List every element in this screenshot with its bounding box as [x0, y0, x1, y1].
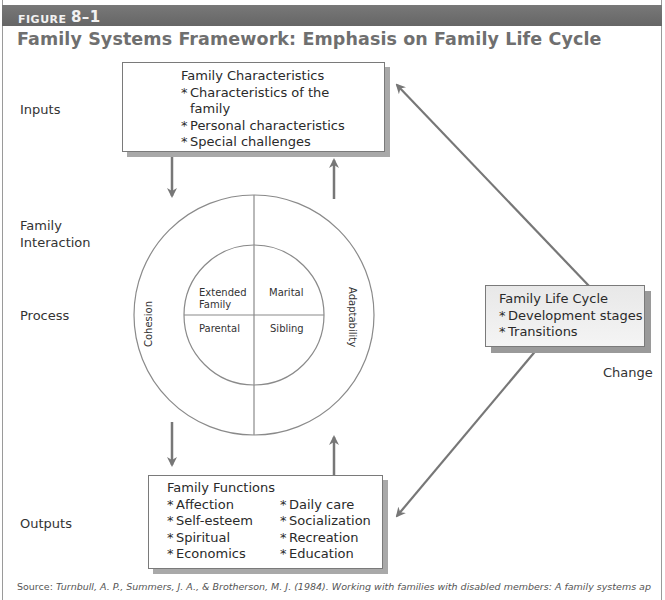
- bullet: *: [280, 530, 289, 547]
- inputs-item: *Characteristics of thefamily: [181, 85, 384, 118]
- inputs-item-text-cont: family: [181, 101, 384, 118]
- bullet: *: [167, 546, 176, 563]
- bullet: *: [280, 497, 289, 514]
- outputs-item-text: Self-esteem: [176, 513, 253, 528]
- life-cycle-item: *Development stages: [499, 308, 644, 325]
- bullet: *: [167, 530, 176, 547]
- row-label-family-interaction: Family Interaction: [20, 217, 91, 251]
- quadrant-extended-line2: Family: [199, 299, 247, 311]
- citation-text: Turnbull, A. P., Summers, J. A., & Broth…: [56, 581, 651, 592]
- bullet: *: [280, 546, 289, 563]
- outputs-item: *Education: [280, 546, 371, 563]
- row-label-outputs: Outputs: [20, 515, 72, 532]
- life-cycle-item-text: Development stages: [508, 308, 643, 323]
- bullet: *: [167, 497, 176, 514]
- inputs-item-text: Special challenges: [190, 134, 311, 149]
- inputs-box-heading: Family Characteristics: [181, 68, 384, 85]
- inputs-item: *Personal characteristics: [181, 118, 384, 135]
- outputs-col-1: *Affection *Self-esteem *Spiritual *Econ…: [167, 497, 280, 563]
- outputs-item: *Spiritual: [167, 530, 280, 547]
- cohesion-label: Cohesion: [143, 263, 154, 309]
- bullet: *: [499, 308, 508, 325]
- outputs-item-text: Affection: [176, 497, 234, 512]
- row-label-interaction-line1: Family: [20, 217, 91, 234]
- row-label-inputs: Inputs: [20, 101, 60, 118]
- quadrant-extended-family: Extended Family: [199, 287, 247, 311]
- row-label-process: Process: [20, 307, 69, 324]
- outputs-item-text: Education: [289, 546, 354, 561]
- outputs-item: *Self-esteem: [167, 513, 280, 530]
- row-label-interaction-line2: Interaction: [20, 234, 91, 251]
- cohesion-text: Cohesion: [143, 301, 154, 347]
- row-label-change: Change: [603, 364, 653, 381]
- outputs-item: *Affection: [167, 497, 280, 514]
- adaptability-text: Adaptability: [347, 287, 358, 347]
- bullet: *: [181, 134, 190, 151]
- inputs-box: Family Characteristics *Characteristics …: [122, 62, 385, 152]
- outputs-box-heading: Family Functions: [167, 480, 382, 497]
- inputs-item-text: Characteristics of the: [190, 85, 329, 100]
- outputs-columns: *Affection *Self-esteem *Spiritual *Econ…: [167, 497, 382, 563]
- inputs-item-text: Personal characteristics: [190, 118, 345, 133]
- outputs-item: *Daily care: [280, 497, 371, 514]
- life-cycle-item: *Transitions: [499, 324, 644, 341]
- source-label: Source:: [17, 581, 53, 592]
- life-cycle-item-text: Transitions: [508, 324, 578, 339]
- outputs-item-text: Economics: [176, 546, 246, 561]
- outputs-item: *Economics: [167, 546, 280, 563]
- adaptability-label: Adaptability: [347, 287, 358, 347]
- outputs-item-text: Spiritual: [176, 530, 230, 545]
- interaction-circle-graphic: [134, 195, 374, 435]
- bullet: *: [499, 324, 508, 341]
- outputs-item-text: Recreation: [289, 530, 359, 545]
- inputs-item: *Special challenges: [181, 134, 384, 151]
- bullet: *: [280, 513, 289, 530]
- life-cycle-box: Family Life Cycle *Development stages *T…: [485, 285, 645, 347]
- quadrant-sibling: Sibling: [270, 323, 304, 335]
- quadrant-extended-line1: Extended: [199, 287, 247, 299]
- outputs-item-text: Daily care: [289, 497, 354, 512]
- outputs-col-2: *Daily care *Socialization *Recreation *…: [280, 497, 371, 563]
- outputs-box: Family Functions *Affection *Self-esteem…: [148, 475, 383, 569]
- quadrant-parental: Parental: [199, 323, 240, 335]
- life-cycle-heading: Family Life Cycle: [499, 291, 644, 308]
- bullet: *: [181, 118, 190, 135]
- bullet: *: [167, 513, 176, 530]
- source-citation: Source: Turnbull, A. P., Summers, J. A.,…: [17, 581, 651, 592]
- quadrant-marital: Marital: [269, 287, 303, 299]
- outputs-item: *Socialization: [280, 513, 371, 530]
- outputs-item: *Recreation: [280, 530, 371, 547]
- outputs-item-text: Socialization: [289, 513, 371, 528]
- bullet: *: [181, 85, 190, 102]
